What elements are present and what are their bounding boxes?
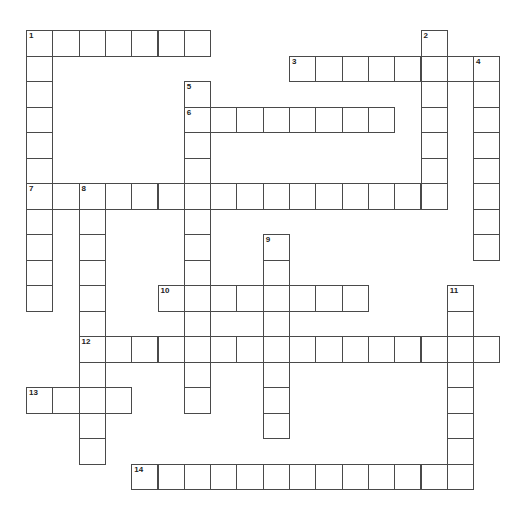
crossword-cell[interactable] xyxy=(184,158,211,185)
crossword-cell[interactable] xyxy=(184,260,211,287)
crossword-cell[interactable] xyxy=(421,464,448,491)
crossword-cell[interactable] xyxy=(315,336,342,363)
crossword-cell[interactable] xyxy=(263,464,290,491)
crossword-cell[interactable] xyxy=(447,362,474,389)
crossword-cell[interactable] xyxy=(158,183,185,210)
crossword-cell[interactable] xyxy=(52,30,79,57)
crossword-cell[interactable] xyxy=(131,336,158,363)
crossword-cell[interactable] xyxy=(368,56,395,83)
crossword-cell[interactable] xyxy=(342,107,369,134)
crossword-cell[interactable] xyxy=(236,464,263,491)
crossword-cell[interactable] xyxy=(79,362,106,389)
crossword-cell[interactable] xyxy=(210,336,237,363)
crossword-cell[interactable] xyxy=(52,183,79,210)
crossword-cell[interactable] xyxy=(394,336,421,363)
crossword-cell[interactable] xyxy=(210,183,237,210)
crossword-cell[interactable] xyxy=(184,234,211,261)
crossword-cell[interactable] xyxy=(421,107,448,134)
crossword-cell[interactable] xyxy=(184,209,211,236)
crossword-cell[interactable] xyxy=(421,56,448,83)
crossword-cell[interactable] xyxy=(79,311,106,338)
crossword-cell[interactable]: 3 xyxy=(289,56,316,83)
crossword-cell[interactable] xyxy=(105,30,132,57)
crossword-cell[interactable] xyxy=(473,209,500,236)
crossword-cell[interactable] xyxy=(289,336,316,363)
crossword-cell[interactable] xyxy=(473,81,500,108)
crossword-cell[interactable] xyxy=(26,56,53,83)
crossword-cell[interactable] xyxy=(184,362,211,389)
crossword-cell[interactable]: 2 xyxy=(421,30,448,57)
crossword-cell[interactable] xyxy=(210,107,237,134)
crossword-cell[interactable] xyxy=(342,183,369,210)
crossword-cell[interactable] xyxy=(158,30,185,57)
crossword-cell[interactable]: 10 xyxy=(158,285,185,312)
crossword-cell[interactable] xyxy=(26,209,53,236)
crossword-cell[interactable] xyxy=(210,464,237,491)
crossword-cell[interactable] xyxy=(26,132,53,159)
crossword-cell[interactable] xyxy=(184,285,211,312)
crossword-cell[interactable] xyxy=(421,81,448,108)
crossword-cell[interactable] xyxy=(263,413,290,440)
crossword-cell[interactable]: 13 xyxy=(26,387,53,414)
crossword-cell[interactable] xyxy=(473,336,500,363)
crossword-cell[interactable] xyxy=(210,285,237,312)
crossword-cell[interactable] xyxy=(368,183,395,210)
crossword-cell[interactable]: 8 xyxy=(79,183,106,210)
crossword-cell[interactable] xyxy=(26,158,53,185)
crossword-cell[interactable] xyxy=(315,56,342,83)
crossword-cell[interactable] xyxy=(79,438,106,465)
crossword-cell[interactable] xyxy=(263,311,290,338)
crossword-cell[interactable] xyxy=(447,56,474,83)
crossword-cell[interactable] xyxy=(421,158,448,185)
crossword-cell[interactable] xyxy=(315,183,342,210)
crossword-cell[interactable] xyxy=(263,387,290,414)
crossword-cell[interactable] xyxy=(184,132,211,159)
crossword-cell[interactable] xyxy=(184,464,211,491)
crossword-cell[interactable] xyxy=(421,132,448,159)
crossword-cell[interactable] xyxy=(421,183,448,210)
crossword-cell[interactable] xyxy=(158,336,185,363)
crossword-cell[interactable]: 1 xyxy=(26,30,53,57)
crossword-cell[interactable]: 11 xyxy=(447,285,474,312)
crossword-cell[interactable] xyxy=(315,107,342,134)
crossword-cell[interactable] xyxy=(447,387,474,414)
crossword-cell[interactable]: 4 xyxy=(473,56,500,83)
crossword-cell[interactable]: 7 xyxy=(26,183,53,210)
crossword-cell[interactable] xyxy=(289,285,316,312)
crossword-cell[interactable] xyxy=(263,260,290,287)
crossword-cell[interactable]: 14 xyxy=(131,464,158,491)
crossword-cell[interactable] xyxy=(26,285,53,312)
crossword-cell[interactable] xyxy=(447,311,474,338)
crossword-cell[interactable] xyxy=(105,183,132,210)
crossword-cell[interactable] xyxy=(473,158,500,185)
crossword-cell[interactable] xyxy=(473,183,500,210)
crossword-cell[interactable] xyxy=(368,107,395,134)
crossword-cell[interactable] xyxy=(79,234,106,261)
crossword-cell[interactable] xyxy=(394,464,421,491)
crossword-cell[interactable] xyxy=(236,183,263,210)
crossword-cell[interactable] xyxy=(342,336,369,363)
crossword-cell[interactable] xyxy=(368,336,395,363)
crossword-cell[interactable] xyxy=(26,260,53,287)
crossword-cell[interactable] xyxy=(79,209,106,236)
crossword-cell[interactable] xyxy=(394,183,421,210)
crossword-cell[interactable] xyxy=(263,285,290,312)
crossword-cell[interactable] xyxy=(368,464,395,491)
crossword-cell[interactable] xyxy=(315,464,342,491)
crossword-cell[interactable] xyxy=(105,336,132,363)
crossword-cell[interactable] xyxy=(79,260,106,287)
crossword-cell[interactable]: 12 xyxy=(79,336,106,363)
crossword-cell[interactable] xyxy=(184,387,211,414)
crossword-cell[interactable] xyxy=(447,413,474,440)
crossword-cell[interactable] xyxy=(447,438,474,465)
crossword-cell[interactable] xyxy=(105,387,132,414)
crossword-cell[interactable] xyxy=(263,183,290,210)
crossword-cell[interactable] xyxy=(236,285,263,312)
crossword-cell[interactable] xyxy=(79,413,106,440)
crossword-cell[interactable] xyxy=(342,285,369,312)
crossword-cell[interactable] xyxy=(79,30,106,57)
crossword-cell[interactable]: 6 xyxy=(184,107,211,134)
crossword-cell[interactable] xyxy=(263,336,290,363)
crossword-cell[interactable] xyxy=(289,107,316,134)
crossword-cell[interactable] xyxy=(289,464,316,491)
